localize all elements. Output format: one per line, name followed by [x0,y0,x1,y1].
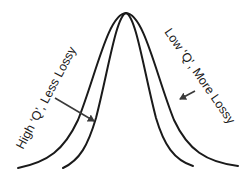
low-q-arrow-icon [180,91,195,99]
high-q-arrow-icon [55,98,94,121]
q-factor-diagram: High ‘Q’, Less Lossy Low ‘Q’, More Lossy [0,0,252,179]
low-q-label: Low ‘Q’, More Lossy [162,26,239,127]
